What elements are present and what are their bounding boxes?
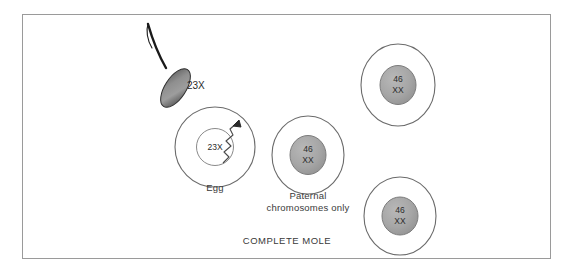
diagram-graphics — [0, 0, 573, 273]
figure-caption: COMPLETE MOLE — [212, 235, 362, 246]
paternal-nucleus-line2: XX — [288, 155, 328, 165]
daughter-lower-nucleus-line2: XX — [380, 216, 420, 226]
egg-cell-label: Egg — [195, 182, 235, 194]
daughter-upper-nucleus-line1: 46 — [378, 74, 418, 84]
egg-nucleus-label: 23X — [195, 142, 235, 152]
sperm-chromosome-label: 23X — [187, 80, 205, 91]
daughter-lower-nucleus-line1: 46 — [380, 205, 420, 215]
paternal-cell-label-line1: Paternal — [258, 190, 358, 202]
paternal-cell-label-line2: chromosomes only — [258, 202, 358, 214]
daughter-upper-nucleus-line2: XX — [378, 85, 418, 95]
paternal-nucleus-line1: 46 — [288, 144, 328, 154]
complete-mole-figure: 23X 23X Egg 46 XX Paternal chromosomes o… — [0, 0, 573, 273]
